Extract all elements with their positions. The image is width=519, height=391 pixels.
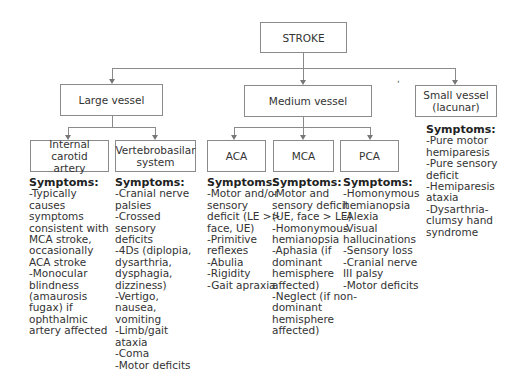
- aca-symptoms-list: -Motor and/or sensory deficit (LE >> fac…: [207, 188, 280, 291]
- connector-to-medium: [303, 68, 304, 80]
- connector-large-down: [112, 116, 113, 127]
- large-vessel-box: Large vessel: [60, 84, 163, 116]
- connector-to-vb: [155, 127, 156, 135]
- pca-symptoms-list: -Homonymous hemianopsia -Alexia -Visual …: [343, 188, 419, 291]
- stray-mark: ,: [397, 74, 400, 84]
- vertebrobasilar-box: Vertebrobasilar system: [115, 140, 196, 172]
- aca-box: ACA: [207, 140, 266, 172]
- connector-to-aca: [234, 127, 235, 135]
- stroke-root-label: STROKE: [282, 32, 324, 44]
- connector-root-down: [303, 53, 304, 68]
- stroke-root-box: STROKE: [260, 22, 347, 53]
- ica-label: Internal carotid artery: [31, 138, 108, 174]
- connector-level1-horizontal: [112, 68, 456, 69]
- vertebrobasilar-label: Vertebrobasilar system: [115, 144, 195, 168]
- pca-symptoms: Symptoms: -Homonymous hemianopsia -Alexi…: [343, 177, 419, 291]
- mca-box: MCA: [273, 140, 334, 172]
- medium-vessel-label: Medium vessel: [269, 95, 347, 107]
- aca-symptoms: Symptoms: -Motor and/or sensory deficit …: [207, 177, 280, 291]
- pca-box: PCA: [340, 140, 399, 172]
- connector-large-horizontal: [68, 127, 156, 128]
- small-vessel-label: Small vessel (lacunar): [423, 89, 489, 113]
- ica-symptoms-list: -Typically causes symptoms consistent wi…: [29, 188, 109, 336]
- ica-symptoms: Symptoms: -Typically causes symptoms con…: [29, 177, 109, 337]
- aca-label: ACA: [226, 150, 248, 162]
- pca-label: PCA: [359, 150, 380, 162]
- medium-vessel-box: Medium vessel: [244, 85, 372, 117]
- small-vessel-symptoms: Symptoms: -Pure motor hemiparesis -Pure …: [426, 124, 498, 238]
- mca-label: MCA: [292, 150, 316, 162]
- vertebrobasilar-symptoms-list: -Cranial nerve palsies -Crossed sensory …: [115, 188, 191, 371]
- connector-to-large: [112, 68, 113, 79]
- connector-to-pca: [370, 127, 371, 135]
- small-vessel-symptoms-list: -Pure motor hemiparesis -Pure sensory de…: [426, 135, 498, 238]
- ica-box: Internal carotid artery: [30, 140, 109, 172]
- connector-to-ica: [68, 127, 69, 135]
- vertebrobasilar-symptoms: Symptoms: -Cranial nerve palsies -Crosse…: [115, 177, 191, 371]
- large-vessel-label: Large vessel: [79, 94, 145, 106]
- connector-to-small: [455, 68, 456, 80]
- connector-to-mca: [303, 127, 304, 135]
- small-vessel-box: Small vessel (lacunar): [415, 85, 497, 117]
- connector-medium-down: [303, 117, 304, 127]
